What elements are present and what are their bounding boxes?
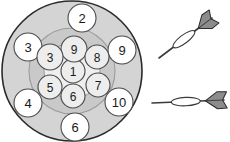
circle-10-label: 10 [112, 95, 126, 110]
circle-7[interactable]: 7 [86, 73, 110, 97]
circle-9-inner-label: 9 [71, 43, 78, 57]
circle-1[interactable]: 1 [61, 59, 85, 83]
circle-3-inner-label: 3 [47, 51, 54, 65]
dart-upper-barrel [171, 28, 197, 51]
circle-2-label: 2 [78, 11, 85, 26]
circle-1-label: 1 [70, 65, 77, 79]
circle-4-label: 4 [24, 96, 31, 111]
dart-upper[interactable] [154, 10, 219, 65]
circle-2[interactable]: 2 [68, 4, 96, 32]
circle-6-inner-label: 6 [70, 90, 77, 104]
circle-6-inner[interactable]: 6 [61, 84, 85, 108]
circle-5[interactable]: 5 [38, 75, 62, 99]
circle-9-inner[interactable]: 9 [61, 36, 87, 62]
circle-5-label: 5 [47, 81, 54, 95]
dartboard-diagram: 2394106 1987653 [0, 0, 230, 142]
circle-4[interactable]: 4 [14, 89, 42, 117]
circle-3-inner[interactable]: 3 [37, 44, 63, 70]
circle-8[interactable]: 8 [85, 45, 109, 69]
circle-6-outer-label: 6 [71, 120, 78, 135]
dart-group [152, 10, 228, 112]
dart-lower-barrel [171, 97, 200, 107]
circle-9-outer[interactable]: 9 [108, 36, 136, 64]
circle-9-outer-label: 9 [118, 43, 125, 58]
circle-8-label: 8 [94, 51, 101, 65]
diagram-canvas: 2394106 1987653 [0, 0, 230, 142]
circle-6-outer[interactable]: 6 [61, 113, 89, 141]
dart-lower[interactable] [152, 91, 228, 111]
circle-10[interactable]: 10 [105, 88, 133, 116]
circle-7-label: 7 [95, 79, 102, 93]
circle-3-outer-label: 3 [24, 40, 31, 55]
